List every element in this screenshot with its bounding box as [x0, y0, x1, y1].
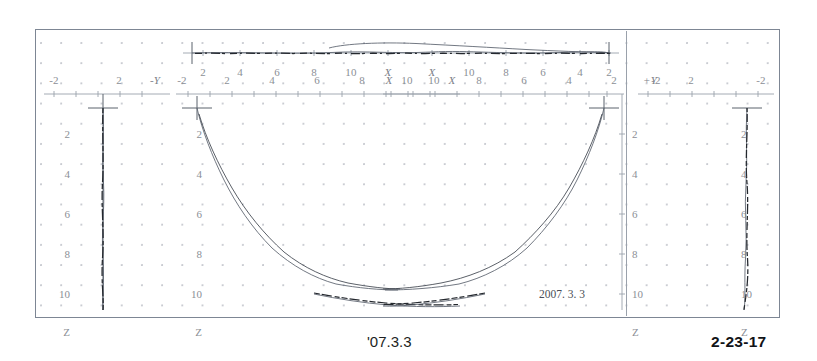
right-yz-ytick-3: 8 — [741, 248, 747, 260]
center-xz-xtick-0: -2 — [177, 74, 187, 86]
right-yz-axis-label: +Y — [643, 74, 657, 86]
center-xz-ytick-1: 4 — [197, 168, 203, 180]
right-yz-ytick-1: 4 — [741, 168, 747, 180]
right-xz-xtick-4: 4 — [566, 74, 572, 86]
center-xz-xtick-4: 8 — [359, 74, 365, 86]
center-xz-ytick-0: 2 — [197, 128, 203, 140]
chart-frame: 2 4 6 8 10 X X 10 8 6 4 2 -2 2 -Y -2 2 4… — [35, 29, 780, 318]
figure-number-caption: 2-23-17 — [711, 333, 767, 351]
left-yz-ytick-5: Z — [63, 326, 70, 338]
right-xz-xtick-2: 8 — [476, 74, 482, 86]
right-yz-xtick-2: -2 — [756, 74, 766, 86]
center-xz-ytick-3: 8 — [197, 248, 203, 260]
left-yz-ytick-1: 4 — [65, 168, 71, 180]
right-yz-depth-labels: 2 4 6 8 10 Z — [736, 94, 762, 322]
left-yz-xtick-0: -2 — [49, 74, 59, 86]
plan-strip-traces — [181, 34, 621, 68]
left-yz-ytick-4: 10 — [59, 288, 70, 300]
right-xz-traces — [381, 88, 626, 316]
panel-right-xz: 2007. 3. 3 — [381, 88, 626, 316]
center-xz-xtick-3: 6 — [314, 74, 320, 86]
right-yz-ytick-4: 10 — [741, 288, 752, 300]
center-xz-ytick-4: 10 — [191, 288, 202, 300]
chart-sheet: 2 4 6 8 10 X X 10 8 6 4 2 -2 2 -Y -2 2 4… — [0, 0, 817, 361]
bottom-date-caption: '07.3.3 — [367, 333, 412, 350]
right-xz-xtick-3: 6 — [521, 74, 527, 86]
right-yz-ytick-0: 2 — [741, 128, 747, 140]
left-yz-ytick-3: 8 — [65, 248, 71, 260]
left-yz-tick-labels: -2 2 -Y — [42, 74, 172, 88]
left-yz-ytick-0: 2 — [65, 128, 71, 140]
center-xz-depth-labels: 2 4 6 8 10 Z — [176, 94, 202, 322]
right-xz-xtick-1: 10 — [428, 74, 439, 86]
center-xz-xtick-1: 2 — [224, 74, 230, 86]
left-yz-ytick-2: 6 — [65, 208, 71, 220]
right-xz-xtick-5: 2 — [611, 74, 617, 86]
right-yz-tick-labels: +Y 2 -2 — [636, 74, 776, 88]
center-xz-xtick-2: 4 — [269, 74, 275, 86]
right-yz-ytick-2: 6 — [741, 208, 747, 220]
inner-date-caption: 2007. 3. 3 — [539, 288, 585, 300]
right-xz-axis-label: X — [386, 74, 393, 86]
panel-plan-strip — [181, 34, 621, 68]
left-yz-depth-labels: 2 4 6 8 10 Z — [44, 94, 70, 322]
left-yz-axis-label: -Y — [150, 74, 160, 86]
right-yz-xtick-1: 2 — [688, 74, 694, 86]
center-xz-ytick-5: Z — [195, 326, 202, 338]
center-xz-ytick-2: 6 — [197, 208, 203, 220]
right-xz-ytick-5: Z — [632, 326, 639, 338]
left-yz-xtick-1: 2 — [116, 74, 122, 86]
